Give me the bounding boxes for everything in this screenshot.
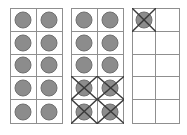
ten-frame-cell[interactable] xyxy=(133,100,156,123)
ten-frame-cell[interactable] xyxy=(156,9,179,32)
ten-frame-cell[interactable] xyxy=(11,100,37,123)
ten-frame-cell[interactable] xyxy=(133,55,156,78)
diagram-canvas xyxy=(0,0,187,135)
ten-frame-cell[interactable] xyxy=(37,32,63,55)
counter-circle xyxy=(41,57,58,74)
ten-frame-cell[interactable] xyxy=(11,77,37,100)
counter-circle xyxy=(136,11,153,28)
counter-circle xyxy=(15,11,32,28)
ten-frame-cell[interactable] xyxy=(37,9,63,32)
counter-circle xyxy=(41,11,58,28)
ten-frame-cell[interactable] xyxy=(133,32,156,55)
ten-frame-cell[interactable] xyxy=(156,32,179,55)
counter-circle xyxy=(41,80,58,97)
counter-circle xyxy=(76,11,93,28)
counter-circle xyxy=(76,103,93,120)
counter-circle xyxy=(15,80,32,97)
ten-frame-cell[interactable] xyxy=(98,100,124,123)
counter-circle xyxy=(102,57,119,74)
counter-circle xyxy=(15,103,32,120)
ten-frame-cell[interactable] xyxy=(72,100,98,123)
ten-frame-cell[interactable] xyxy=(11,55,37,78)
counter-circle xyxy=(102,11,119,28)
ten-frame-3 xyxy=(132,8,180,124)
ten-frame-cell[interactable] xyxy=(11,32,37,55)
ten-frame-cell[interactable] xyxy=(37,55,63,78)
counter-circle xyxy=(41,103,58,120)
counter-circle xyxy=(76,57,93,74)
ten-frame-cell[interactable] xyxy=(72,32,98,55)
ten-frame-cell[interactable] xyxy=(37,100,63,123)
counter-circle xyxy=(15,34,32,51)
ten-frame-cell[interactable] xyxy=(72,9,98,32)
counter-circle xyxy=(102,80,119,97)
ten-frame-cell[interactable] xyxy=(98,55,124,78)
ten-frame-1 xyxy=(10,8,63,124)
counter-circle xyxy=(102,34,119,51)
ten-frame-cell[interactable] xyxy=(98,32,124,55)
ten-frame-cell[interactable] xyxy=(156,77,179,100)
ten-frame-cell[interactable] xyxy=(72,77,98,100)
counter-circle xyxy=(76,34,93,51)
counter-circle xyxy=(41,34,58,51)
ten-frame-cell[interactable] xyxy=(133,77,156,100)
counter-circle xyxy=(76,80,93,97)
ten-frame-cell[interactable] xyxy=(133,9,156,32)
ten-frame-cell[interactable] xyxy=(98,77,124,100)
ten-frame-2 xyxy=(71,8,124,124)
ten-frame-cell[interactable] xyxy=(98,9,124,32)
counter-circle xyxy=(102,103,119,120)
counter-circle xyxy=(15,57,32,74)
ten-frame-cell[interactable] xyxy=(11,9,37,32)
ten-frame-cell[interactable] xyxy=(156,100,179,123)
ten-frame-cell[interactable] xyxy=(37,77,63,100)
ten-frame-cell[interactable] xyxy=(72,55,98,78)
ten-frame-cell[interactable] xyxy=(156,55,179,78)
